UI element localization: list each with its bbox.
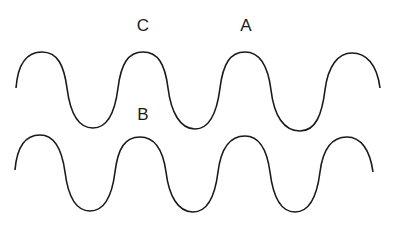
label-a: A [240,17,251,34]
bottom-wave [15,135,373,212]
waves-svg [0,0,396,228]
top-wave [16,52,380,131]
label-b: B [137,106,148,123]
diagram-canvas: C A B [0,0,396,228]
label-c: C [137,17,149,34]
